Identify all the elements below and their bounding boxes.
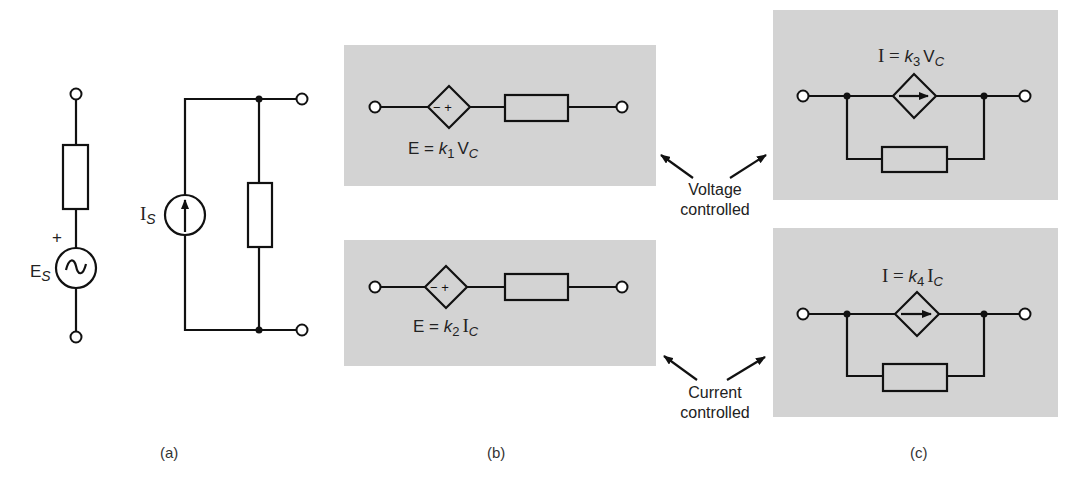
terminal <box>1020 91 1031 102</box>
vcvs-panel: − + E = k1VC <box>344 45 656 186</box>
terminal <box>1020 309 1031 320</box>
terminal <box>297 94 308 105</box>
terminal <box>798 309 809 320</box>
caption-a: (a) <box>160 444 178 461</box>
arrow-icon <box>727 357 765 380</box>
voltage-controlled-annotation: Voltage controlled <box>661 155 766 218</box>
terminal <box>71 89 82 100</box>
voltage-source-label: ES <box>30 262 51 284</box>
arrow-icon <box>661 155 693 178</box>
terminal <box>71 332 82 343</box>
independent-current-source-circuit: IS <box>140 94 308 336</box>
current-controlled-annotation: Current controlled <box>664 356 765 421</box>
ccvs-panel: − + E = k2IC <box>344 240 656 366</box>
circuit-figure: + ES IS (a) − + E = k1VC − + <box>0 0 1085 483</box>
caption-b: (b) <box>487 444 505 461</box>
arrow-icon <box>664 356 697 380</box>
current-source-label: IS <box>140 203 156 227</box>
svg-text:controlled: controlled <box>680 201 749 218</box>
terminal <box>370 102 381 113</box>
terminal <box>617 282 628 293</box>
svg-text:− +: − + <box>433 100 452 115</box>
vcvs-equation: E = k1VC <box>408 139 479 161</box>
svg-text:− +: − + <box>430 280 449 295</box>
svg-text:Current: Current <box>688 384 742 401</box>
terminal <box>617 102 628 113</box>
cccs-panel: I = k4IC <box>773 228 1058 417</box>
terminal <box>798 91 809 102</box>
independent-voltage-source-circuit: + ES <box>30 89 96 343</box>
caption-c: (c) <box>910 444 928 461</box>
svg-text:Voltage: Voltage <box>688 181 741 198</box>
svg-text:controlled: controlled <box>680 404 749 421</box>
terminal <box>297 325 308 336</box>
shunt-resistor <box>248 183 272 247</box>
arrow-icon <box>730 155 766 178</box>
series-resistor <box>63 145 88 209</box>
polarity-plus: + <box>52 228 62 247</box>
terminal <box>370 282 381 293</box>
vccs-panel: I = k3VC <box>773 10 1058 200</box>
